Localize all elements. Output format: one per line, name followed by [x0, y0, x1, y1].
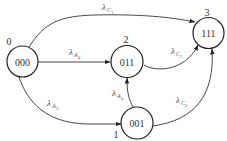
svg-text:2: 2	[180, 54, 182, 59]
edge-1-to-3	[153, 49, 212, 126]
edge-1-to-2	[127, 78, 133, 107]
svg-text:4: 4	[78, 55, 81, 60]
edge-label-1-to-2: λ A 4	[111, 88, 124, 101]
svg-text:λ: λ	[101, 2, 106, 12]
node-1-index: 1	[114, 129, 119, 140]
svg-text:λ: λ	[175, 95, 180, 105]
node-0: 000 0	[7, 36, 39, 78]
node-3: 111 3	[193, 7, 224, 49]
svg-text:4: 4	[121, 96, 124, 101]
node-2-index: 2	[124, 34, 129, 45]
edge-0-to-3	[29, 15, 195, 47]
svg-text:λ: λ	[68, 47, 73, 57]
edge-label-0-to-2: λ A 4	[68, 47, 81, 60]
node-0-index: 0	[7, 36, 12, 47]
svg-text:λ: λ	[111, 88, 116, 98]
node-2: 011 2	[111, 34, 143, 78]
edge-0-to-1	[19, 77, 121, 124]
edge-label-0-to-3: λ C 1	[101, 2, 113, 15]
svg-text:λ: λ	[46, 98, 51, 108]
edge-label-0-to-1: λ A 3	[46, 98, 59, 111]
node-2-state: 011	[120, 57, 135, 68]
node-1-state: 001	[130, 118, 145, 129]
svg-text:1: 1	[111, 10, 113, 15]
svg-text:3: 3	[185, 103, 188, 108]
node-1: 001 1	[114, 107, 154, 140]
svg-text:3: 3	[56, 106, 59, 111]
node-3-state: 111	[201, 28, 215, 39]
edge-label-1-to-3: λ C 3	[175, 95, 188, 108]
svg-text:λ: λ	[170, 46, 175, 56]
state-transition-diagram: λ C 1 λ A 4 λ C 2 λ A 4 λ A 3 λ C 3 000 …	[0, 0, 227, 141]
node-0-state: 000	[15, 57, 30, 68]
edge-label-2-to-3: λ C 2	[170, 46, 182, 59]
node-3-index: 3	[205, 7, 210, 18]
